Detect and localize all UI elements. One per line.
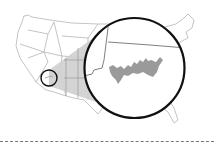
locator-map: [0, 0, 214, 143]
dashed-divider: [0, 141, 214, 142]
